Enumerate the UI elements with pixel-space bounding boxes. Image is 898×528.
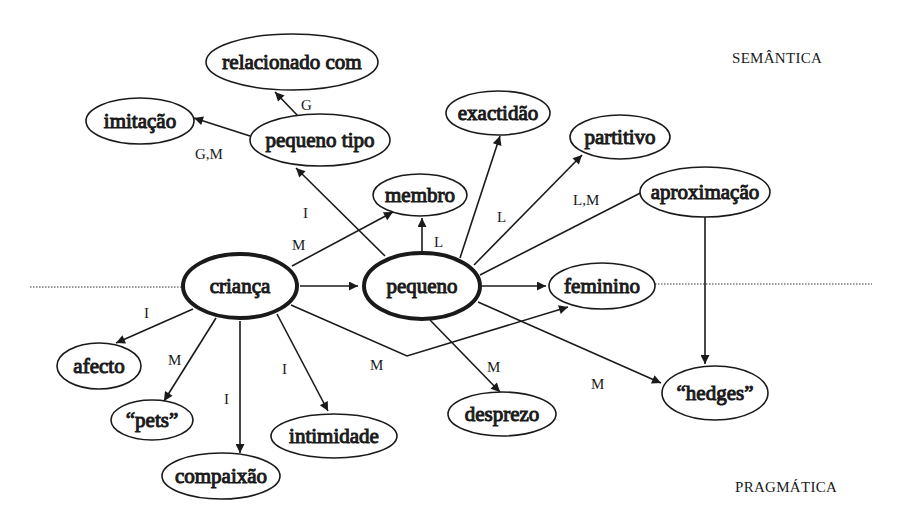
edge-label-feminino-m: M: [370, 357, 383, 373]
node-aproximacao: aproximação: [640, 167, 770, 217]
svg-text:pequeno: pequeno: [386, 274, 457, 298]
svg-text:desprezo: desprezo: [465, 402, 540, 426]
node-crianca: criança: [183, 254, 297, 318]
node-pequeno-tipo: pequeno tipo: [250, 114, 390, 166]
node-intimidade: intimidade: [271, 414, 397, 458]
node-hedges: “hedges”: [662, 366, 768, 420]
node-relacionado-com: relacionado com: [206, 34, 378, 90]
node-afecto: afecto: [57, 343, 141, 389]
svg-text:membro: membro: [385, 183, 455, 207]
region-label-semantica: SEMÂNTICA: [732, 50, 822, 66]
edge-pequeno-pequeno-tipo: [296, 168, 385, 256]
node-compaixao: compaixão: [162, 453, 280, 499]
svg-text:aproximação: aproximação: [651, 180, 759, 204]
edge-label-pequeno-tipo-i: I: [303, 205, 308, 221]
semantic-network-diagram: relacionado com imitação pequeno tipo me…: [0, 0, 898, 528]
svg-text:pequeno tipo: pequeno tipo: [265, 128, 374, 152]
edge-pequeno-tipo-relacionado: [275, 92, 298, 116]
svg-text:imitação: imitação: [104, 109, 176, 133]
svg-text:criança: criança: [210, 274, 271, 298]
svg-text:feminino: feminino: [564, 274, 640, 298]
node-feminino: feminino: [549, 263, 655, 309]
edge-label-aproximacao-lm: L,M: [573, 192, 599, 208]
edge-label-crianca-membro-m: M: [292, 237, 305, 253]
svg-text:“pets”: “pets”: [126, 408, 178, 432]
edge-crianca-afecto: [116, 309, 193, 343]
svg-text:“hedges”: “hedges”: [677, 381, 754, 405]
edge-label-partitivo-l: L: [497, 209, 506, 225]
node-imitacao: imitação: [86, 98, 194, 144]
node-exactidao: exactidão: [446, 91, 550, 135]
svg-text:partitivo: partitivo: [584, 125, 655, 149]
node-pets: “pets”: [111, 400, 193, 440]
svg-text:exactidão: exactidão: [458, 101, 538, 125]
edge-pequeno-aproximacao: [480, 185, 656, 275]
svg-text:intimidade: intimidade: [289, 424, 379, 448]
edge-pequeno-hedges: [478, 302, 661, 383]
edge-label-intimidade-i: I: [282, 361, 287, 377]
edge-label-g: G: [301, 97, 312, 113]
svg-text:compaixão: compaixão: [175, 464, 267, 488]
svg-text:relacionado com: relacionado com: [222, 50, 361, 74]
edge-label-pequeno-membro-l: L: [434, 234, 443, 250]
edge-pequeno-partitivo: [474, 155, 582, 265]
svg-text:afecto: afecto: [73, 354, 124, 378]
node-pequeno: pequeno: [364, 253, 480, 319]
edge-label-pets-m: M: [168, 352, 181, 368]
edge-label-afecto-i: I: [144, 305, 149, 321]
node-membro: membro: [373, 174, 467, 216]
edge-label-compaixao-i: I: [224, 391, 229, 407]
edge-pequeno-tipo-imitacao: [194, 118, 250, 136]
edge-label-gm: G,M: [195, 146, 223, 162]
edge-label-hedges-m: M: [591, 376, 604, 392]
node-partitivo: partitivo: [570, 115, 670, 159]
node-desprezo: desprezo: [448, 392, 556, 436]
region-label-pragmatica: PRAGMÁTICA: [735, 479, 837, 495]
edge-label-desprezo-m: M: [487, 359, 500, 375]
